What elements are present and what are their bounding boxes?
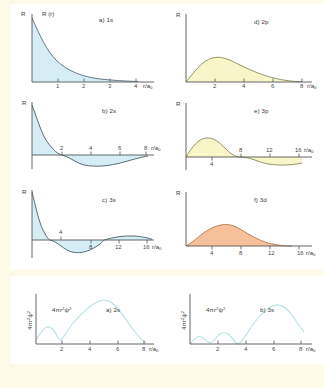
x-axis-title-2s: r/a0 bbox=[151, 145, 160, 152]
tick-label-2p-1: 2 bbox=[213, 83, 216, 89]
x-axis-title-3s: r/a0 bbox=[152, 244, 161, 251]
tick-label-2p-4: 8 bbox=[300, 83, 303, 89]
panel-rdf-3s[interactable]: 4πr2ψ2 4πr2ψ2 b) 3s 2 4 6 8 r/a0 bbox=[170, 280, 320, 366]
panel-3s-plot bbox=[14, 184, 162, 270]
tick-label-rdf-3s-1: 2 bbox=[216, 346, 219, 352]
tick-label-3d-1: 4 bbox=[210, 250, 213, 256]
curve-fill-2p bbox=[186, 57, 302, 82]
tick-label-rdf-2s-4: 8 bbox=[142, 346, 145, 352]
tick-label-1s-2: 2 bbox=[82, 83, 85, 89]
tick-label-3d-4: 16 bbox=[297, 250, 304, 256]
curve-fill-2s-positive bbox=[32, 105, 62, 155]
panel-label-2s: b) 2s bbox=[102, 107, 116, 114]
tick-label-2s-2: 4 bbox=[89, 145, 92, 151]
y-axis-label-3d: R bbox=[176, 189, 180, 196]
y-axis-label-rdf-3s: 4πr2ψ2 bbox=[180, 311, 187, 330]
y-axis-label-2p: R bbox=[176, 11, 180, 18]
panel-2s-plot bbox=[14, 95, 162, 179]
tick-label-rdf-2s-2: 4 bbox=[88, 346, 91, 352]
tick-label-3p-2: 8 bbox=[239, 147, 242, 153]
panel-label-3s: c) 3s bbox=[102, 196, 116, 203]
tick-label-2s-4: 8 bbox=[144, 145, 147, 151]
tick-label-rdf-3s-2: 4 bbox=[244, 346, 247, 352]
tick-label-rdf-2s-3: 6 bbox=[116, 346, 119, 352]
tick-label-1s-3: 3 bbox=[108, 83, 111, 89]
panel-2s[interactable]: R b) 2s 2 4 6 8 r/a0 bbox=[14, 95, 162, 179]
y-axis-label-3p: R bbox=[176, 100, 180, 107]
figure-root: R R (r) a) 1s 1 2 3 4 r/a0 R d) 2p 2 4 6… bbox=[0, 0, 324, 388]
panel-rdf-2s-plot bbox=[14, 280, 162, 366]
x-axis-title-3p: r/a0 bbox=[304, 147, 313, 154]
tick-label-3p-4: 16 bbox=[295, 147, 302, 153]
x-axis-title-rdf-2s: r/a0 bbox=[149, 346, 158, 353]
tick-label-3s-4: 16 bbox=[143, 244, 150, 250]
panel-3p[interactable]: R e) 3p 4 8 12 16 r/a0 bbox=[170, 95, 320, 179]
tick-label-rdf-3s-3: 6 bbox=[272, 346, 275, 352]
panel-label-2p: d) 2p bbox=[254, 18, 269, 25]
panel-label-rdf-2s: a) 2s bbox=[106, 306, 120, 313]
panel-3d[interactable]: R f) 3d 4 8 12 16 r/a0 bbox=[170, 184, 320, 270]
panel-rdf-2s[interactable]: 4πr2ψ2 4πr2ψ2 a) 2s 2 4 6 8 r/a0 bbox=[14, 280, 162, 366]
tick-label-3s-3: 12 bbox=[115, 244, 122, 250]
tick-label-rdf-3s-4: 8 bbox=[299, 346, 302, 352]
tick-label-3s-1: 4 bbox=[59, 229, 62, 235]
x-axis-title-3d: r/a0 bbox=[306, 250, 315, 257]
x-axis-title-2p: r/a0 bbox=[307, 83, 316, 90]
panel-3s[interactable]: R c) 3s 4 8 12 16 r/a0 bbox=[14, 184, 162, 270]
y-axis-inline-label-rdf-3s: 4πr2ψ2 bbox=[206, 306, 226, 313]
panel-3p-plot bbox=[170, 95, 320, 179]
panel-label-rdf-3s: b) 3s bbox=[260, 306, 274, 313]
function-label-1s: R (r) bbox=[42, 10, 54, 17]
y-axis-inline-label-rdf-2s: 4πr2ψ2 bbox=[52, 306, 72, 313]
panel-rdf-3s-plot bbox=[170, 280, 320, 366]
panel-2p-plot bbox=[170, 6, 320, 90]
tick-label-1s-1: 1 bbox=[56, 83, 59, 89]
tick-label-1s-4: 4 bbox=[134, 83, 137, 89]
y-axis-label-3s: R bbox=[22, 188, 26, 195]
panel-label-3p: e) 3p bbox=[254, 107, 269, 114]
panel-1s[interactable]: R R (r) a) 1s 1 2 3 4 r/a0 bbox=[14, 6, 162, 90]
panel-1s-plot bbox=[14, 6, 162, 90]
tick-label-rdf-2s-1: 2 bbox=[60, 346, 63, 352]
tick-label-2s-3: 6 bbox=[118, 145, 121, 151]
x-axis-title-rdf-3s: r/a0 bbox=[306, 346, 315, 353]
y-axis-label-1s: R bbox=[21, 10, 25, 17]
tick-label-3d-3: 12 bbox=[268, 250, 275, 256]
tick-label-2p-3: 6 bbox=[271, 83, 274, 89]
x-axis-title-1s: r/a0 bbox=[143, 83, 152, 90]
panel-label-3d: f) 3d bbox=[254, 196, 267, 203]
tick-label-3p-3: 12 bbox=[266, 147, 273, 153]
panel-3d-plot bbox=[170, 184, 320, 270]
tick-label-3p-1: 4 bbox=[210, 161, 213, 167]
tick-label-2p-2: 4 bbox=[242, 83, 245, 89]
tick-label-3d-2: 8 bbox=[239, 250, 242, 256]
tick-label-2s-1: 2 bbox=[60, 145, 63, 151]
y-axis-label-2s: R bbox=[22, 99, 26, 106]
y-axis-label-rdf-2s: 4πr2ψ2 bbox=[26, 311, 33, 330]
panel-label-1s: a) 1s bbox=[99, 16, 113, 23]
curve-fill-3d bbox=[186, 225, 292, 246]
panel-2p[interactable]: R d) 2p 2 4 6 8 r/a0 bbox=[170, 6, 320, 90]
tick-label-3s-2: 8 bbox=[89, 244, 92, 250]
curve-fill-3s-a bbox=[32, 192, 50, 240]
